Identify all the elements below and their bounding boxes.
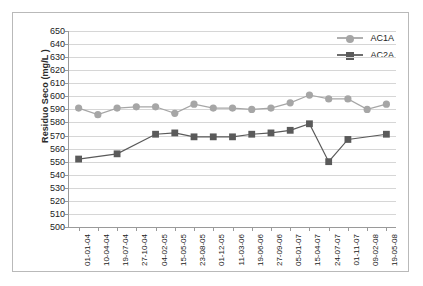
- y-tick-label: 640: [50, 39, 65, 49]
- data-point-ac1a: [171, 110, 178, 117]
- data-point-ac1a: [229, 104, 236, 111]
- x-tick-label: 24-07-07: [333, 234, 342, 266]
- x-tick-label: 04-02-05: [160, 234, 169, 266]
- x-tick-mark: [136, 227, 137, 231]
- x-tick-mark: [386, 227, 387, 231]
- data-point-ac2a: [325, 158, 332, 165]
- data-point-ac2a: [268, 130, 275, 137]
- data-point-ac1a: [306, 91, 313, 98]
- data-point-ac1a: [364, 106, 371, 113]
- data-point-ac2a: [383, 131, 390, 138]
- data-point-ac1a: [287, 99, 294, 106]
- y-axis-title: Residuo Seco (mg/L ): [40, 26, 50, 166]
- data-point-ac2a: [248, 131, 255, 138]
- x-tick-mark: [252, 227, 253, 231]
- data-point-ac2a: [210, 133, 217, 140]
- x-tick-label: 23-08-05: [198, 234, 207, 266]
- y-tick-label: 590: [50, 104, 65, 114]
- data-point-ac1a: [75, 104, 82, 111]
- x-tick-label: 19-07-04: [121, 234, 130, 266]
- y-tick-label: 500: [50, 222, 65, 232]
- y-tick-label: 630: [50, 52, 65, 62]
- x-tick-label: 01-11-07: [352, 234, 361, 265]
- data-point-ac2a: [171, 130, 178, 137]
- x-tick-label: 27-09-06: [275, 234, 284, 266]
- y-tick-label: 530: [50, 183, 65, 193]
- data-point-ac2a: [345, 136, 352, 143]
- plot-area: 6506406306206106005905805705605505405305…: [68, 31, 396, 228]
- y-tick-mark: [65, 227, 69, 228]
- data-point-ac1a: [248, 106, 255, 113]
- y-tick-label: 550: [50, 157, 65, 167]
- data-point-ac2a: [229, 133, 236, 140]
- data-point-ac1a: [383, 101, 390, 108]
- data-point-ac1a: [94, 111, 101, 118]
- data-point-ac2a: [114, 150, 121, 157]
- x-tick-label: 27-10-04: [140, 234, 149, 266]
- data-point-ac1a: [267, 104, 274, 111]
- y-tick-label: 560: [50, 144, 65, 154]
- series-layer: [69, 31, 396, 227]
- x-tick-mark: [117, 227, 118, 231]
- x-tick-mark: [367, 227, 368, 231]
- y-tick-label: 650: [50, 26, 65, 36]
- x-tick-mark: [329, 227, 330, 231]
- y-tick-label: 600: [50, 91, 65, 101]
- y-tick-label: 570: [50, 131, 65, 141]
- y-tick-label: 620: [50, 65, 65, 75]
- data-point-ac2a: [287, 127, 294, 134]
- data-point-ac2a: [306, 120, 313, 127]
- data-point-ac2a: [75, 156, 82, 163]
- data-point-ac1a: [113, 104, 120, 111]
- chart-frame: Residuo Seco (mg/L ) AC1A AC2A 650640630…: [12, 12, 409, 272]
- data-point-ac1a: [152, 103, 159, 110]
- data-point-ac1a: [210, 104, 217, 111]
- x-tick-label: 11-03-06: [237, 234, 246, 265]
- x-tick-mark: [290, 227, 291, 231]
- y-tick-label: 580: [50, 117, 65, 127]
- x-tick-label: 05-01-07: [294, 234, 303, 266]
- chart-screenshot: Residuo Seco (mg/L ) AC1A AC2A 650640630…: [0, 0, 423, 286]
- y-tick-label: 610: [50, 78, 65, 88]
- data-point-ac1a: [133, 103, 140, 110]
- series-line-ac2a: [79, 124, 387, 162]
- x-tick-label: 19-06-06: [256, 234, 265, 266]
- y-tick-label: 540: [50, 170, 65, 180]
- data-point-ac1a: [190, 101, 197, 108]
- x-tick-mark: [175, 227, 176, 231]
- data-point-ac1a: [325, 95, 332, 102]
- x-tick-label: 19-05-08: [390, 234, 399, 266]
- data-point-ac2a: [152, 131, 159, 138]
- x-tick-label: 09-02-08: [371, 234, 380, 266]
- x-tick-mark: [309, 227, 310, 231]
- x-tick-mark: [233, 227, 234, 231]
- x-tick-mark: [98, 227, 99, 231]
- x-tick-label: 15-04-07: [313, 234, 322, 266]
- y-tick-label: 510: [50, 209, 65, 219]
- x-tick-mark: [194, 227, 195, 231]
- x-tick-mark: [271, 227, 272, 231]
- y-tick-label: 520: [50, 196, 65, 206]
- x-tick-label: 15-05-05: [179, 234, 188, 266]
- x-tick-mark: [213, 227, 214, 231]
- x-tick-mark: [348, 227, 349, 231]
- x-tick-mark: [79, 227, 80, 231]
- x-tick-label: 01-01-04: [83, 234, 92, 266]
- data-point-ac1a: [344, 95, 351, 102]
- x-tick-label: 01-12-05: [217, 234, 226, 266]
- x-tick-mark: [156, 227, 157, 231]
- x-tick-label: 10-04-04: [102, 234, 111, 266]
- data-point-ac2a: [191, 133, 198, 140]
